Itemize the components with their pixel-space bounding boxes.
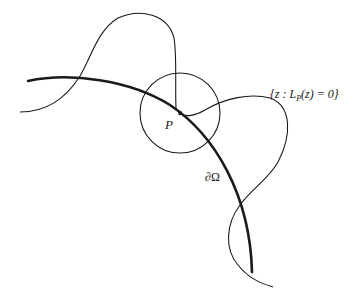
point-p-marker (179, 112, 183, 116)
diagram-canvas: P ∂Ω {z : LP(z) = 0} (0, 0, 362, 305)
point-p-label: P (164, 117, 173, 132)
boundary-label: ∂Ω (205, 170, 220, 184)
zero-set-label: {z : LP(z) = 0} (270, 87, 339, 103)
zero-set-label-tail: (z) = 0} (301, 87, 339, 101)
zero-set-label-head: {z : L (270, 87, 296, 101)
zero-set-curve-right (181, 96, 288, 287)
